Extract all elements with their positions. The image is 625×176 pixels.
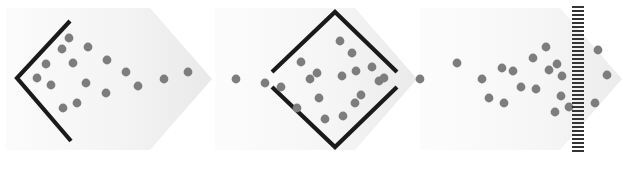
particle-dot	[416, 75, 425, 84]
particle-dot	[47, 81, 56, 90]
particle-dot	[557, 92, 566, 101]
particle-dot	[65, 34, 74, 43]
figure-canvas	[0, 0, 625, 176]
particle-dot	[103, 56, 112, 65]
particle-dot	[532, 85, 541, 94]
particle-dot	[277, 83, 286, 92]
particle-dot	[352, 67, 361, 76]
particle-dot	[453, 59, 462, 68]
particle-dot	[321, 115, 330, 124]
particle-dot	[293, 104, 302, 113]
panel-3-arrow-shape	[420, 8, 622, 150]
particle-dot	[261, 79, 270, 88]
particle-dot	[551, 108, 560, 117]
particle-dot	[553, 60, 562, 69]
particle-dot	[558, 72, 567, 81]
particle-dot	[594, 46, 603, 55]
particle-dot	[315, 94, 324, 103]
particle-dot	[306, 75, 315, 84]
particle-dot	[529, 54, 538, 63]
particle-dot	[134, 82, 143, 91]
particle-dot	[59, 104, 68, 113]
particle-dot	[69, 59, 78, 68]
particle-dot	[348, 49, 357, 58]
particle-dot	[232, 75, 241, 84]
particle-dot	[102, 89, 111, 98]
particle-dot	[478, 75, 487, 84]
particle-dot	[545, 66, 554, 75]
particle-dot	[500, 99, 509, 108]
particle-dot	[591, 99, 600, 108]
particle-dot	[313, 69, 322, 78]
particle-dot	[338, 72, 347, 81]
particle-dot	[184, 68, 193, 77]
particle-dot	[517, 83, 526, 92]
particle-dot	[297, 58, 306, 67]
panel-3-background	[420, 8, 622, 150]
particle-dot	[58, 45, 67, 54]
particle-dot	[357, 91, 366, 100]
figure-svg	[0, 0, 625, 176]
particle-dot	[73, 99, 82, 108]
particle-dot	[380, 74, 389, 83]
particle-dot	[509, 67, 518, 76]
particle-dot	[336, 37, 345, 46]
particle-dot	[485, 94, 494, 103]
particle-dot	[33, 74, 42, 83]
particle-dot	[42, 60, 51, 69]
particle-dot	[82, 79, 91, 88]
particle-dot	[122, 68, 131, 77]
particle-dot	[603, 71, 612, 80]
particle-dot	[368, 63, 377, 72]
particle-dot	[160, 75, 169, 84]
particle-dot	[84, 43, 93, 52]
particle-dot	[351, 99, 360, 108]
particle-dot	[542, 43, 551, 52]
particle-dot	[339, 112, 348, 121]
particle-dot	[498, 64, 507, 73]
